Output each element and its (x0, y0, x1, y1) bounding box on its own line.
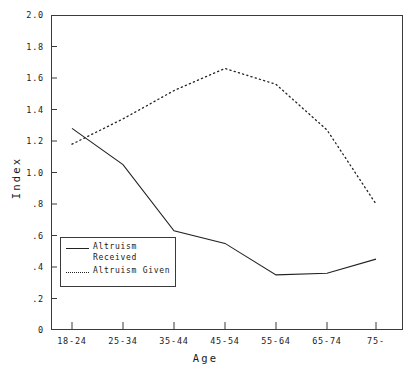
x-tick-label: 75- (367, 336, 385, 346)
legend-swatch-dotted-line-icon (66, 272, 89, 274)
y-tick-label: 1.2 (26, 136, 44, 146)
y-tick-label: 1.8 (26, 42, 44, 52)
legend-label-line1: Altruism Given (93, 265, 170, 276)
x-axis-title: Age (0, 352, 411, 364)
x-tick-label: 35-44 (159, 336, 189, 346)
y-tick-label: 2.0 (26, 10, 44, 20)
x-tick-label: 55-64 (261, 336, 291, 346)
legend-entry-altruism-given: Altruism Given (61, 265, 177, 281)
chart-legend: Altruism Received Altruism Given (60, 237, 176, 287)
x-tick-label: 25-34 (108, 336, 138, 346)
x-axis-tick-labels: 18-24 25-34 35-44 45-54 55-64 65-74 75- (0, 336, 411, 352)
legend-label-line1: Altruism (93, 241, 137, 252)
clipped-chart-title (0, 0, 411, 7)
x-tick-label: 65-74 (312, 336, 342, 346)
y-tick-label: 1.6 (26, 73, 44, 83)
y-tick-label: .8 (32, 199, 44, 209)
y-axis-tick-labels: 2.0 1.8 1.6 1.4 1.2 1.0 .8 .6 .4 .2 0 (0, 0, 51, 372)
y-tick-label: .2 (32, 294, 44, 304)
x-tick-label: 18-24 (57, 336, 87, 346)
y-axis-title: Index (10, 148, 22, 208)
y-tick-label: 0 (38, 325, 44, 335)
y-tick-label: 1.4 (26, 105, 44, 115)
y-tick-label: .6 (32, 231, 44, 241)
chart-root: 2.0 1.8 1.6 1.4 1.2 1.0 .8 .6 .4 .2 0 In… (0, 0, 411, 372)
legend-entry-altruism-received: Altruism Received (61, 241, 177, 257)
x-tick-label: 45-54 (210, 336, 240, 346)
legend-swatch-solid-line-icon (66, 248, 89, 250)
legend-label-line2: Received (93, 252, 137, 263)
y-tick-label: .4 (32, 262, 44, 272)
y-tick-label: 1.0 (26, 168, 44, 178)
